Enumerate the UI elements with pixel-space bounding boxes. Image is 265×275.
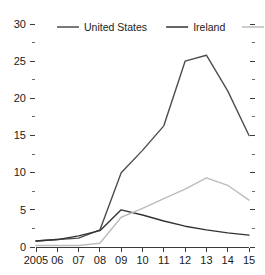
x-axis-tick-label: 10 xyxy=(136,254,148,266)
series-line-ireland xyxy=(36,210,249,241)
series-line-spain xyxy=(36,178,249,246)
chart-plot-area: United StatesIrelandSpain 051015202530 2… xyxy=(0,0,265,275)
x-axis-tick-label: 12 xyxy=(179,254,191,266)
x-axis-tick-label: 08 xyxy=(94,254,106,266)
x-axis-tick-label: 2005 xyxy=(24,254,48,266)
y-axis-tick-label: 30 xyxy=(14,18,26,30)
x-axis-tick-label: 09 xyxy=(115,254,127,266)
series-line-united-states xyxy=(36,55,249,241)
x-axis-tick-label: 14 xyxy=(222,254,234,266)
x-axis-tick-label: 06 xyxy=(51,254,63,266)
y-axis-tick-label: 15 xyxy=(14,129,26,141)
x-axis-tick-label: 11 xyxy=(158,254,169,266)
y-axis: 051015202530 xyxy=(14,18,35,253)
y-axis-tick-label: 5 xyxy=(20,204,26,216)
chart-legend: United StatesIrelandSpain xyxy=(57,21,265,33)
y-axis-tick-label: 25 xyxy=(14,55,26,67)
chart-series xyxy=(36,55,249,245)
legend-label-united-states: United States xyxy=(84,21,147,33)
y-axis-tick-label: 10 xyxy=(14,166,26,178)
line-chart: United StatesIrelandSpain 051015202530 2… xyxy=(0,0,265,275)
x-axis-tick-label: 07 xyxy=(72,254,84,266)
x-axis: 200506070809101112131415 xyxy=(24,248,255,267)
legend-label-ireland: Ireland xyxy=(193,21,225,33)
y-axis-tick-label: 0 xyxy=(20,241,26,253)
x-axis-tick-label: 15 xyxy=(243,254,255,266)
y-axis-right-ticks xyxy=(250,24,255,247)
y-axis-tick-label: 20 xyxy=(14,92,26,104)
x-axis-tick-label: 13 xyxy=(200,254,212,266)
